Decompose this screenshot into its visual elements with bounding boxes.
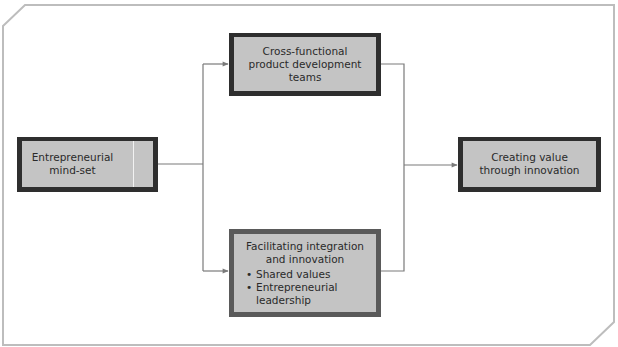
bullet-item-entrepreneurial-leadership: • Entrepreneurial leadership (246, 281, 364, 307)
bullet-text: Shared values (256, 268, 364, 281)
node-label-line: mind-set (49, 164, 95, 177)
node-label-line: Cross-functional (263, 45, 348, 58)
node-label-line: teams (289, 71, 322, 84)
node-label-line: Creating value (491, 151, 568, 164)
node-label-line: Entrepreneurial (32, 151, 114, 164)
node-label-line: and innovation (266, 253, 345, 266)
box-divider (133, 141, 134, 187)
node-entrepreneurial-mindset: Entrepreneurial mind-set (17, 137, 158, 192)
bullet-icon: • (246, 268, 252, 281)
node-label-line: Facilitating integration (246, 240, 364, 253)
bullet-list: • Shared values • Entrepreneurial leader… (246, 268, 364, 307)
bullet-item-shared-values: • Shared values (246, 268, 364, 281)
node-creating-value: Creating value through innovation (458, 137, 601, 192)
bullet-icon: • (246, 281, 252, 294)
node-label-line: through innovation (479, 164, 579, 177)
node-cross-functional-teams: Cross-functional product development tea… (229, 33, 381, 96)
bullet-text: Entrepreneurial (256, 281, 364, 294)
node-label-line: product development (249, 58, 362, 71)
node-facilitating-integration: Facilitating integration and innovation … (229, 229, 381, 317)
bullet-text: leadership (256, 294, 364, 307)
edge-cross-functional-out (381, 64, 404, 271)
